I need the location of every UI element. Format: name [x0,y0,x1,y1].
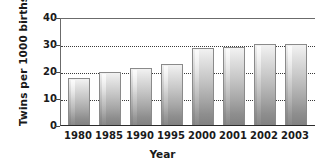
bar-2000 [192,48,214,125]
bar-2003 [285,44,307,125]
bar-highlight [102,74,106,125]
twins-per-1000-births-bar-chart: Twins per 1000 births 40 30 20 10 0 1980… [0,0,325,168]
bar-highlight [133,70,137,125]
plot-area [60,18,315,126]
x-tick-label-2003: 2003 [275,130,315,141]
bar-2002 [254,44,276,125]
bar-highlight [226,49,230,125]
bar-1985 [99,72,121,125]
bar-1995 [161,64,183,125]
y-tick-label-20: 20 [33,67,57,77]
gridline-30 [61,46,315,47]
bar-highlight [71,80,75,125]
y-axis-title: Twins per 1000 births [17,6,29,126]
x-axis-title: Year [0,148,325,160]
bar-highlight [195,50,199,125]
bar-1990 [130,68,152,125]
y-tick-label-10: 10 [33,94,57,104]
bar-1980 [68,78,90,125]
bar-highlight [288,46,292,125]
bar-highlight [164,66,168,125]
y-tick-mark-0 [55,126,60,127]
bar-highlight [257,46,261,125]
y-tick-label-30: 30 [33,40,57,50]
y-tick-label-40: 40 [33,13,57,23]
bar-2001 [223,47,245,125]
y-tick-label-0: 0 [33,121,57,131]
